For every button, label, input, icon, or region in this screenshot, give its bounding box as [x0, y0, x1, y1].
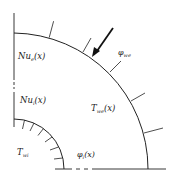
label-phi-inner: φi(x)	[77, 151, 95, 160]
inner-wall-arc	[14, 119, 64, 169]
heat-flux-arrow-icon	[92, 28, 113, 57]
label-nu-outer: Nue(x)	[18, 52, 45, 62]
label-phi-outer: φwe	[118, 49, 131, 58]
label-t-inner: Twi	[17, 148, 29, 158]
label-nu-inner: Nui(x)	[20, 96, 46, 106]
label-t-outer: Twe(x)	[91, 104, 115, 114]
